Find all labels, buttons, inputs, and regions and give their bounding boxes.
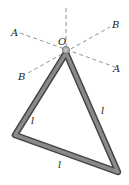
label-side-right: l [101,105,104,116]
label-o: O [58,36,66,47]
label-b-left: B [17,71,25,82]
triangle-pendulum-diagram: O A A B B l l l [0,0,129,185]
label-a-right: A [112,63,120,74]
label-a-left: A [10,27,18,38]
label-side-left: l [31,115,34,126]
label-side-bottom: l [58,159,61,170]
label-b-right: B [111,19,119,30]
pivot-point [63,47,70,54]
